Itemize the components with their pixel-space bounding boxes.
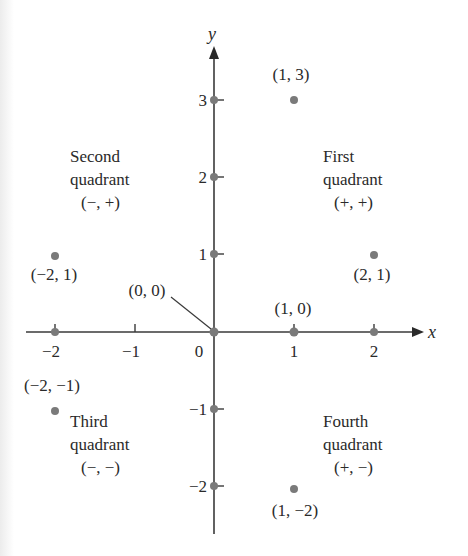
quadrant-third: Third quadrant (−, −) — [70, 412, 130, 477]
quadrant-fourth: Fourth quadrant (+, −) — [323, 412, 383, 477]
svg-text:(+, +): (+, +) — [334, 193, 373, 212]
y-tick-label: −1 — [189, 400, 207, 419]
svg-text:Third: Third — [70, 412, 108, 431]
x-axis-arrowhead — [412, 327, 424, 337]
coordinate-plane: x y −2 −1 0 1 2 3 2 1 −1 −2 — [0, 0, 468, 556]
point-label: (1, 3) — [273, 65, 310, 84]
x-tick-label: −1 — [122, 342, 140, 361]
point-label: (1, 0) — [275, 299, 312, 318]
y-axis-arrowhead — [209, 46, 219, 59]
point-label: (−2, −1) — [24, 376, 80, 395]
y-axis-label: y — [206, 24, 216, 44]
y-tick-label: 1 — [199, 245, 208, 264]
y-tick-marks — [214, 100, 224, 486]
point-label: (1, −2) — [272, 501, 318, 520]
svg-text:Second: Second — [70, 147, 121, 166]
x-tick-label: 1 — [290, 342, 299, 361]
point-neg2-1 — [51, 252, 59, 260]
point-label: (0, 0) — [129, 281, 166, 300]
svg-text:(−, −): (−, −) — [81, 458, 120, 477]
point-2-1 — [370, 251, 378, 259]
svg-text:quadrant: quadrant — [70, 435, 130, 454]
svg-text:First: First — [323, 147, 354, 166]
origin-leader-line — [171, 297, 211, 329]
point-1-neg2 — [290, 485, 298, 493]
point-1-3 — [290, 96, 298, 104]
svg-text:(−, +): (−, +) — [81, 193, 120, 212]
point-neg2-neg1 — [51, 407, 59, 415]
y-tick-label: 2 — [199, 168, 208, 187]
point-1-0 — [290, 328, 299, 337]
y-tick-labels: 3 2 1 −1 −2 — [189, 91, 207, 496]
x-tick-label: 0 — [195, 342, 204, 361]
svg-text:quadrant: quadrant — [323, 170, 383, 189]
svg-text:(+, −): (+, −) — [334, 458, 373, 477]
x-axis-label: x — [427, 322, 436, 342]
quadrant-first: First quadrant (+, +) — [323, 147, 383, 212]
quadrant-second: Second quadrant (−, +) — [70, 147, 130, 212]
y-tick-label: −2 — [189, 477, 207, 496]
svg-text:quadrant: quadrant — [70, 170, 130, 189]
svg-text:quadrant: quadrant — [323, 435, 383, 454]
point-label: (−2, 1) — [31, 265, 77, 284]
y-tick-label: 3 — [199, 91, 208, 110]
x-tick-labels: −2 −1 0 1 2 — [42, 342, 378, 361]
x-tick-label: −2 — [42, 342, 60, 361]
svg-text:Fourth: Fourth — [323, 412, 369, 431]
point-label: (2, 1) — [354, 265, 391, 284]
x-tick-label: 2 — [370, 342, 379, 361]
